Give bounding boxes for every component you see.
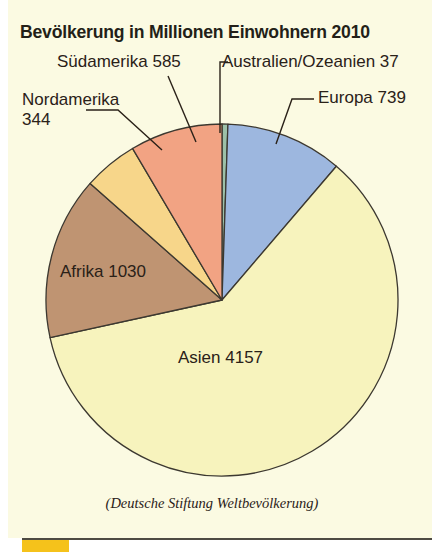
footer-rule [22, 538, 432, 540]
footer-accent-bar [22, 540, 69, 552]
callout-label-nordamerika: Nordamerika 344 [22, 90, 142, 130]
callout-label-europa: Europa 739 [318, 88, 406, 108]
source-note: (Deutsche Stiftung Weltbevölkerung) [0, 495, 424, 512]
callout-label-australien: Australien/Ozeanien 37 [222, 52, 399, 72]
slice-label-afrika: Afrika 1030 [60, 262, 146, 282]
slice-label-asien: Asien 4157 [178, 348, 263, 368]
page-title: Bevölkerung in Millionen Einwohnern 2010 [20, 22, 410, 43]
callout-label-suedamerika: Südamerika 585 [57, 52, 181, 72]
